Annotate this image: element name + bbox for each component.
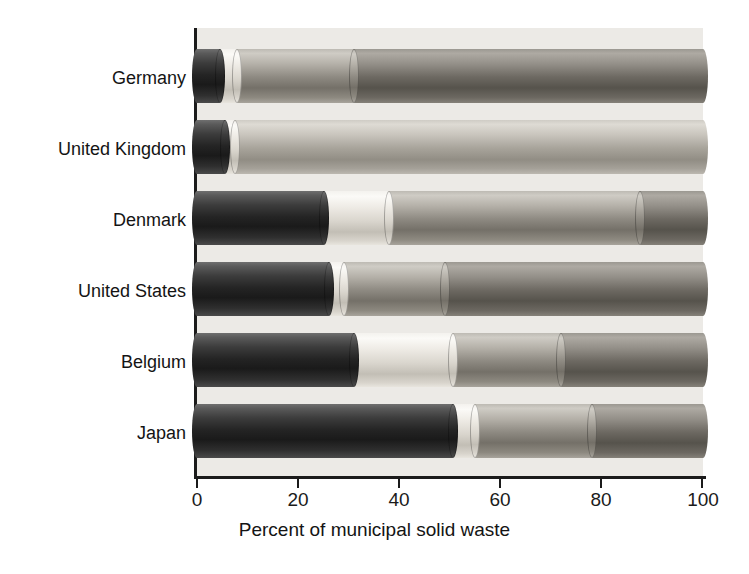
category-label-belgium: Belgium [0, 352, 186, 373]
bar-end-cap [698, 120, 708, 174]
x-tick-100 [701, 479, 703, 488]
bar-segment [197, 404, 453, 458]
bar-segment-divider [349, 333, 359, 387]
bar-segment [445, 262, 703, 316]
bar-segment-divider [635, 191, 645, 245]
bar-segment [237, 49, 353, 103]
bar-segment [197, 191, 324, 245]
x-tick-label-60: 60 [489, 489, 510, 511]
bar-united-kingdom [197, 120, 703, 174]
category-label-japan: Japan [0, 423, 186, 444]
bar-japan [197, 404, 703, 458]
bar-segment [561, 333, 703, 387]
bar-belgium [197, 333, 703, 387]
category-label-united-kingdom: United Kingdom [0, 139, 186, 160]
bar-end-cap [698, 49, 708, 103]
bar-segment-divider [319, 191, 329, 245]
x-tick-label-40: 40 [388, 489, 409, 511]
bar-segment-divider [220, 120, 230, 174]
x-tick-80 [600, 479, 602, 488]
bar-segment-divider [440, 262, 450, 316]
x-tick-0 [196, 479, 198, 488]
bar-end-cap [698, 191, 708, 245]
category-label-united-states: United States [0, 281, 186, 302]
x-tick-label-0: 0 [192, 489, 203, 511]
bar-segment-divider [339, 262, 349, 316]
bar-segment-divider [215, 49, 225, 103]
x-axis-line [194, 476, 706, 479]
bar-end-cap [698, 262, 708, 316]
bar-segment-divider [448, 404, 458, 458]
bar-segment [197, 120, 225, 174]
x-tick-40 [398, 479, 400, 488]
bar-segment [197, 49, 220, 103]
bar-segment [235, 120, 703, 174]
bar-segment [197, 333, 354, 387]
bar-segment [475, 404, 591, 458]
category-label-germany: Germany [0, 68, 186, 89]
bar-segment [453, 333, 562, 387]
x-axis-title: Percent of municipal solid waste [0, 519, 749, 541]
bar-segment-divider [448, 333, 458, 387]
bar-segment [197, 262, 329, 316]
bar-segment-divider [230, 120, 240, 174]
bar-segment [592, 404, 703, 458]
x-tick-60 [499, 479, 501, 488]
x-tick-label-80: 80 [590, 489, 611, 511]
x-tick-label-100: 100 [687, 489, 719, 511]
bar-segment [324, 191, 390, 245]
bar-segment [389, 191, 639, 245]
bar-segment-divider [324, 262, 334, 316]
bar-end-cap [698, 333, 708, 387]
bar-segment-divider [587, 404, 597, 458]
bar-segment [354, 333, 453, 387]
category-label-denmark: Denmark [0, 210, 186, 231]
bar-denmark [197, 191, 703, 245]
x-tick-label-20: 20 [287, 489, 308, 511]
bar-segment [640, 191, 703, 245]
bar-segment-divider [349, 49, 359, 103]
x-tick-20 [297, 479, 299, 488]
bar-germany [197, 49, 703, 103]
chart-figure: 0 20 40 60 80 100 Germany United Kingdom… [0, 0, 749, 574]
bar-segment [344, 262, 445, 316]
bar-united-states [197, 262, 703, 316]
bar-end-cap [698, 404, 708, 458]
bar-segment [354, 49, 703, 103]
